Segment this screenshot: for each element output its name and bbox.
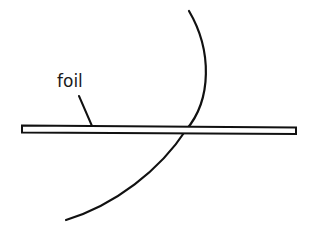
diagram-canvas — [0, 0, 310, 244]
foil-leader-line — [79, 96, 92, 126]
foil-strip — [22, 126, 296, 135]
foil-label: foil — [57, 73, 83, 90]
